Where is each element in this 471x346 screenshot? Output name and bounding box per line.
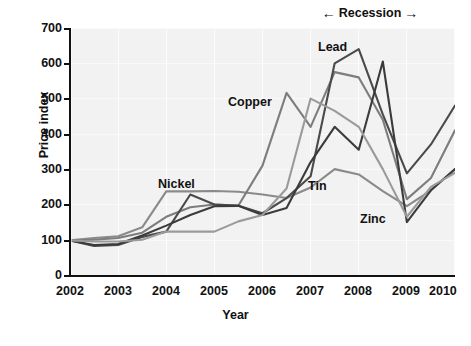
price-index-line-chart: 700 600 500 400 300 200 100 0 2002 2003 … (0, 0, 471, 346)
y-tick-200 (64, 204, 69, 206)
x-tick-label-2003: 2003 (93, 285, 143, 298)
plot-area (70, 28, 455, 275)
y-tick-label-300: 300 (2, 163, 62, 176)
y-tick-700 (64, 28, 69, 30)
x-tick-label-2006: 2006 (237, 285, 287, 298)
series-canvas (70, 28, 455, 275)
series-line-lead (70, 49, 455, 246)
x-axis-title: Year (0, 308, 471, 322)
series-label-lead: Lead (318, 41, 347, 54)
series-label-nickel: Nickel (158, 178, 195, 191)
series-line-nickel (70, 169, 455, 240)
x-tick-label-2005: 2005 (189, 285, 239, 298)
x-tick-label-2010: 2010 (429, 285, 471, 298)
y-tick-300 (64, 169, 69, 171)
y-axis-title: Price index (37, 65, 51, 185)
y-tick-0 (64, 275, 69, 277)
y-tick-label-600: 600 (2, 57, 62, 70)
series-label-tin: Tin (308, 180, 327, 193)
x-tick-label-2002: 2002 (45, 285, 95, 298)
x-tick-label-2008: 2008 (333, 285, 383, 298)
y-tick-label-100: 100 (2, 234, 62, 247)
y-tick-label-0: 0 (2, 269, 62, 282)
series-label-zinc: Zinc (360, 213, 386, 226)
series-label-copper: Copper (228, 96, 272, 109)
recession-label: Recession (339, 7, 402, 20)
y-tick-label-700: 700 (2, 22, 62, 35)
y-tick-label-400: 400 (2, 128, 62, 141)
y-axis-line (69, 28, 71, 276)
x-axis-line (69, 275, 455, 277)
y-tick-500 (64, 98, 69, 100)
x-tick-label-2004: 2004 (141, 285, 191, 298)
y-tick-100 (64, 240, 69, 242)
series-line-tin (70, 62, 455, 245)
y-tick-label-200: 200 (2, 198, 62, 211)
arrow-left-icon: ← (322, 6, 336, 20)
y-tick-label-500: 500 (2, 92, 62, 105)
arrow-right-icon: → (404, 6, 418, 20)
x-tick-label-2009: 2009 (381, 285, 431, 298)
y-tick-600 (64, 63, 69, 65)
y-tick-400 (64, 134, 69, 136)
recession-annotation: ← Recession → (300, 4, 440, 22)
x-tick-label-2007: 2007 (285, 285, 335, 298)
